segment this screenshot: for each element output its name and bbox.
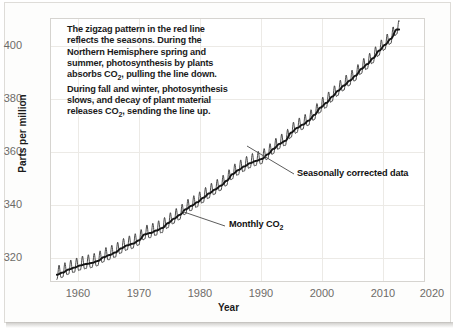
y-tick-340: 340 xyxy=(0,198,22,210)
callout-monthly-subscript: 2 xyxy=(280,224,284,231)
y-tick-400: 400 xyxy=(0,39,22,51)
x-tick-1970: 1970 xyxy=(116,287,162,299)
y-tick-320: 320 xyxy=(0,251,22,263)
callout-monthly-co2: Monthly CO2 xyxy=(229,219,283,231)
x-tick-1960: 1960 xyxy=(55,287,101,299)
leader-line-seasonal xyxy=(247,146,294,174)
annotation-note-line: Northern Hemisphere spring and xyxy=(67,47,280,58)
x-tick-1990: 1990 xyxy=(238,287,284,299)
card-shadow xyxy=(6,322,453,328)
x-tick-2010: 2010 xyxy=(360,287,406,299)
annotation-note-line: absorbs CO2, pulling the line down. xyxy=(67,69,280,83)
annotation-note-line: The zigzag pattern in the red line xyxy=(67,24,280,35)
annotation-note-line: slows, and decay of plant material xyxy=(67,95,280,106)
plot-area: The zigzag pattern in the red linereflec… xyxy=(50,18,425,282)
x-tick-1980: 1980 xyxy=(177,287,223,299)
leader-line-monthly xyxy=(181,211,225,226)
callout-seasonally-corrected: Seasonally corrected data xyxy=(297,168,408,178)
annotation-note-line: During fall and winter, photosynthesis xyxy=(67,84,280,95)
x-tick-2020: 2020 xyxy=(409,287,455,299)
annotation-note-line: summer, photosynthesis by plants xyxy=(67,58,280,69)
annotation-note-line: releases CO2, sending the line up. xyxy=(67,106,280,120)
x-tick-2000: 2000 xyxy=(299,287,345,299)
y-axis-label: Parts per million xyxy=(17,79,28,189)
annotation-note: The zigzag pattern in the red linereflec… xyxy=(67,24,280,120)
annotation-note-line: reflects the seasons. During the xyxy=(67,35,280,46)
x-axis-label: Year xyxy=(0,302,457,313)
chart-figure: 400 380 360 340 320 1960 1970 1980 1990 … xyxy=(0,0,457,335)
callout-monthly-text: Monthly CO xyxy=(229,219,280,229)
